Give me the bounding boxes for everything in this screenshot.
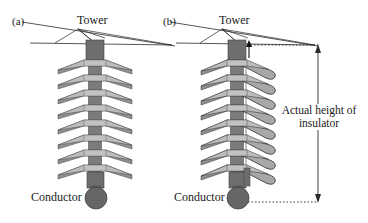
panel-tag-b: (b) bbox=[163, 16, 176, 28]
panel-a-artwork bbox=[22, 22, 175, 209]
insulator-side-tab-b bbox=[244, 168, 250, 186]
figure-canvas: (a) Tower Conductor (b) Tower Conductor … bbox=[0, 0, 368, 223]
conductor-label-b: Conductor bbox=[174, 191, 225, 204]
conductor-node-a bbox=[85, 187, 107, 209]
tower-label-b: Tower bbox=[219, 14, 249, 27]
dimension-label-line2: insulator bbox=[271, 117, 367, 129]
top-measure-arrow-head bbox=[246, 40, 252, 47]
conductor-label-a: Conductor bbox=[31, 191, 82, 204]
dimension-label-line1: Actual height of bbox=[271, 104, 367, 116]
insulator-bottom-fitting-b bbox=[229, 172, 246, 188]
panel-tag-a: (a) bbox=[12, 16, 24, 28]
conductor-node-b bbox=[227, 187, 249, 209]
tower-label-a: Tower bbox=[77, 14, 107, 27]
insulator-bottom-fitting-a bbox=[87, 172, 104, 188]
